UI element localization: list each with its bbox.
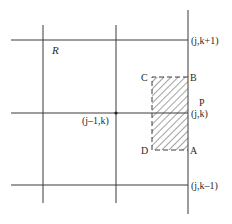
node-label-center-right: (j,k) xyxy=(191,108,208,120)
corner-label-c: C xyxy=(141,72,148,83)
grid-diagram: R (j,k+1) (j,k) (j,k–1) (j–1,k) P C B D … xyxy=(0,0,232,224)
hatched-control-volume xyxy=(152,77,188,150)
region-label: R xyxy=(51,44,59,56)
corner-label-b: B xyxy=(190,72,197,83)
node-label-bottom-right: (j,k–1) xyxy=(191,180,218,192)
corner-label-d: D xyxy=(141,145,148,156)
node-label-top-right: (j,k+1) xyxy=(191,35,219,47)
node-label-center-left: (j–1,k) xyxy=(82,115,109,127)
corner-label-a: A xyxy=(190,145,198,156)
node-dot xyxy=(114,111,117,114)
point-p-label: P xyxy=(199,97,205,108)
